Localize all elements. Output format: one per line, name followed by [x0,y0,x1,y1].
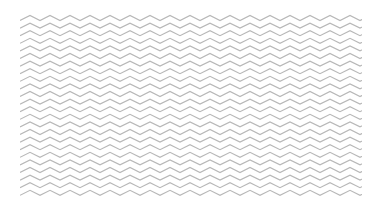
zigzag-line [20,61,362,66]
zigzag-line [20,107,362,112]
zigzag-line [20,137,362,142]
zigzag-line [20,183,362,188]
zigzag-line [20,99,362,104]
zigzag-line [20,130,362,135]
zigzag-line [20,92,362,97]
zigzag-line [20,190,362,195]
zigzag-line [20,76,362,81]
zigzag-line [20,160,362,165]
zigzag-line [20,46,362,51]
zigzag-line [20,145,362,150]
zigzag-line [20,152,362,157]
zigzag-line [20,114,362,119]
zigzag-line [20,122,362,127]
zigzag-line [20,168,362,173]
zigzag-line [20,23,362,28]
zigzag-line [20,16,362,21]
zigzag-line [20,38,362,43]
zigzag-pattern [20,13,362,197]
zigzag-lines [20,13,362,197]
zigzag-line [20,175,362,180]
zigzag-line [20,54,362,59]
zigzag-line [20,69,362,74]
zigzag-line [20,84,362,89]
zigzag-line [20,31,362,36]
